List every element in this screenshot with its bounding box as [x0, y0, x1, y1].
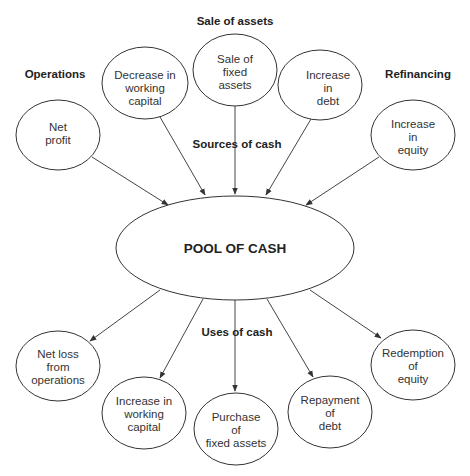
svg-text:Net loss: Net loss	[37, 348, 79, 360]
svg-text:Decrease in: Decrease in	[114, 69, 175, 81]
source-edges	[92, 106, 379, 205]
cash-flow-diagram: Operations Sale of assets Refinancing So…	[0, 0, 470, 476]
source-node-net-profit: Net profit	[16, 100, 100, 170]
source-node-increase-debt: Increase in debt	[278, 50, 362, 120]
use-node-repayment-debt: Repayment of debt	[288, 376, 372, 448]
svg-text:Net: Net	[49, 121, 68, 133]
use-node-increase-working-capital: Increase in working capital	[102, 377, 186, 449]
svg-text:fixed assets: fixed assets	[206, 437, 267, 449]
edge-repayment-debt	[267, 299, 313, 377]
pool-of-cash-label: POOL OF CASH	[184, 241, 287, 256]
source-node-decrease-working-capital: Decrease in working capital	[102, 47, 188, 119]
label-sources-of-cash: Sources of cash	[193, 138, 282, 150]
svg-text:capital: capital	[127, 421, 160, 433]
svg-text:equity: equity	[398, 144, 429, 156]
svg-text:debt: debt	[319, 420, 342, 432]
label-uses-of-cash: Uses of cash	[202, 326, 273, 338]
svg-text:equity: equity	[398, 373, 429, 385]
edge-increase-equity	[306, 157, 379, 205]
edge-net-profit	[92, 157, 168, 205]
svg-text:working: working	[124, 82, 165, 94]
svg-text:Redemption: Redemption	[382, 347, 444, 359]
pool-of-cash-node: POOL OF CASH	[116, 196, 354, 300]
svg-text:of: of	[231, 424, 241, 436]
svg-text:assets: assets	[218, 79, 251, 91]
source-node-sale-fixed-assets: Sale of fixed assets	[193, 34, 277, 106]
svg-text:Increase in: Increase in	[116, 395, 172, 407]
svg-text:of: of	[325, 407, 335, 419]
svg-text:in: in	[324, 82, 333, 94]
edge-redemption-equity	[310, 290, 381, 338]
source-node-increase-equity: Increase in equity	[371, 100, 455, 170]
svg-text:Increase: Increase	[391, 118, 435, 130]
svg-text:Increase: Increase	[306, 69, 350, 81]
svg-text:fixed: fixed	[223, 66, 247, 78]
use-node-net-loss-operations: Net loss from operations	[16, 331, 100, 401]
edge-increase-debt	[266, 119, 311, 195]
label-refinancing: Refinancing	[385, 68, 451, 80]
use-edges	[90, 290, 381, 391]
svg-text:from: from	[47, 361, 70, 373]
edge-decrease-working-capital	[160, 117, 205, 195]
use-node-redemption-equity: Redemption of equity	[371, 330, 455, 400]
svg-text:of: of	[408, 360, 418, 372]
svg-text:operations: operations	[31, 374, 85, 386]
edge-increase-working-capital	[160, 299, 203, 378]
svg-text:working: working	[123, 408, 164, 420]
svg-text:capital: capital	[128, 95, 161, 107]
svg-text:Purchase: Purchase	[212, 411, 261, 423]
svg-text:Repayment: Repayment	[301, 394, 361, 406]
svg-text:profit: profit	[45, 134, 71, 146]
label-operations: Operations	[25, 68, 86, 80]
edge-net-loss-operations	[90, 290, 160, 341]
svg-text:Sale of: Sale of	[217, 53, 254, 65]
svg-text:debt: debt	[317, 95, 340, 107]
use-node-purchase-fixed-assets: Purchase of fixed assets	[194, 393, 278, 465]
svg-text:in: in	[409, 131, 418, 143]
label-sale-of-assets: Sale of assets	[197, 15, 274, 27]
